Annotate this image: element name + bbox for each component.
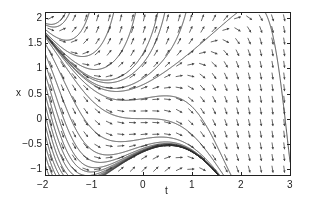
y-tick-label: 0	[36, 114, 42, 124]
y-tick-label: 2	[36, 13, 42, 23]
x-axis-label: t	[165, 186, 168, 196]
direction-field-plot	[0, 0, 309, 202]
x-tick-label: 0	[140, 180, 146, 190]
x-tick-label: 2	[238, 180, 244, 190]
y-tick-label: 1.5	[28, 38, 42, 48]
y-tick-label: −1	[31, 164, 42, 174]
y-axis-label: x	[16, 88, 21, 98]
y-tick-label: 1	[36, 63, 42, 73]
y-tick-label: 0.5	[28, 89, 42, 99]
y-tick-label: −0.5	[22, 139, 42, 149]
x-tick-label: 3	[287, 180, 293, 190]
x-tick-label: −2	[37, 180, 48, 190]
x-tick-label: 1	[189, 180, 195, 190]
x-tick-label: −1	[86, 180, 97, 190]
